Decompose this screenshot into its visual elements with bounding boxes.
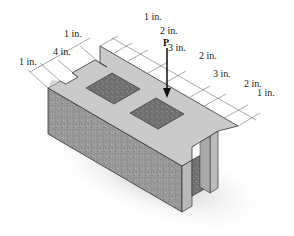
dim-top-1-in: 1 in. (144, 12, 162, 22)
concrete-block-diagram (0, 0, 294, 236)
load-arrow (163, 48, 171, 98)
end-face-right-flange (210, 131, 218, 193)
end-face-right-side (200, 136, 210, 193)
dim-left-4-in: 4 in. (53, 47, 71, 57)
dim-left-1-in-top: 1 in. (64, 29, 82, 39)
dim-top-2-in-a: 2 in. (160, 26, 178, 36)
dim-top-3-in-a: 3 in. (168, 43, 186, 53)
dim-left-1-in-bottom: 1 in. (19, 57, 37, 67)
dim-top-2-in-b: 2 in. (199, 51, 217, 61)
dim-top-1-in-b: 1 in. (257, 88, 275, 98)
dim-top-3-in-b: 3 in. (213, 69, 231, 79)
end-face-left-flange (182, 160, 192, 212)
